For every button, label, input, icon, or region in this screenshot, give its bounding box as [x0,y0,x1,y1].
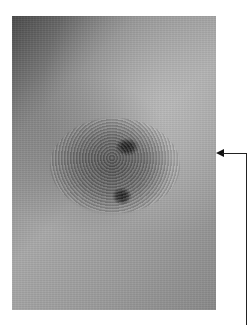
annotation-arrow-line-vertical [246,153,247,325]
annotation-arrow-line-horizontal [222,153,247,154]
photograph [12,16,216,310]
